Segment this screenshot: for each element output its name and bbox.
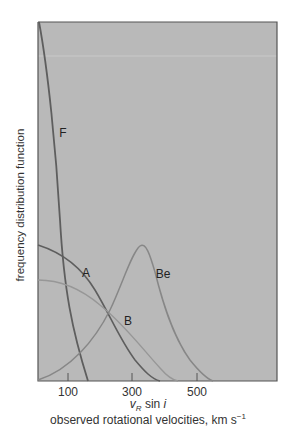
curve-label-a: A xyxy=(82,266,90,280)
x-symbol-sin: sin xyxy=(142,397,164,411)
y-axis-label: frequency distribution function xyxy=(14,129,26,282)
x-axis-label: observed rotational velocities, km s−1 xyxy=(50,412,246,427)
x-axis-label-exponent: −1 xyxy=(237,412,246,421)
x-tick-label-100: 100 xyxy=(58,385,78,399)
x-axis-label-text: observed rotational velocities, km s xyxy=(50,413,237,427)
chart-plot xyxy=(0,0,293,429)
curve-label-b: B xyxy=(124,314,132,328)
x-axis-symbol: vR sin i xyxy=(130,397,166,413)
curve-label-be: Be xyxy=(156,267,171,281)
x-symbol-i: i xyxy=(164,397,167,411)
x-tick-label-500: 500 xyxy=(187,385,207,399)
curve-label-f: F xyxy=(59,126,66,140)
